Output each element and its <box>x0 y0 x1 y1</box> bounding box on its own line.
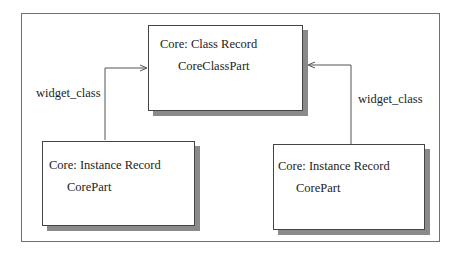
class-record-part: CoreClassPart <box>178 59 250 74</box>
instance-record-left-part: CorePart <box>67 180 111 195</box>
class-record-box: Core: Class Record CoreClassPart <box>148 25 303 111</box>
diagram-canvas: Core: Class Record CoreClassPart Core: I… <box>0 0 461 253</box>
edge-right <box>308 62 351 144</box>
edge-right-line <box>309 65 351 144</box>
edge-left-label: widget_class <box>36 86 101 101</box>
class-record-title: Core: Class Record <box>160 37 257 52</box>
edge-right-label: widget_class <box>358 92 423 107</box>
instance-record-left-box: Core: Instance Record CorePart <box>42 141 195 226</box>
edge-left-line <box>105 68 146 140</box>
instance-record-right-title: Core: Instance Record <box>278 159 390 174</box>
instance-record-right-box: Core: Instance Record CorePart <box>273 144 425 230</box>
instance-record-left-title: Core: Instance Record <box>49 158 161 173</box>
instance-record-right-part: CorePart <box>296 181 340 196</box>
edge-left <box>105 65 147 140</box>
